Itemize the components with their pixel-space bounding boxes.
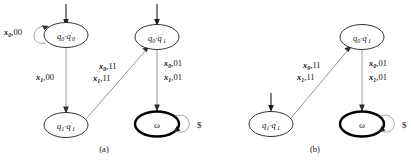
panel-a: x0,00 q0·q′0 x1,00 q1·q′1	[3, 4, 202, 154]
edge-label-a-q0q0p-to-q1q1p: x1,00	[35, 72, 54, 83]
state-a-q1q1p[interactable]: q1·q′1	[44, 113, 88, 138]
state-a-omega[interactable]: ω	[135, 112, 179, 137]
edge-label-a-selfloop-omega: $	[197, 120, 202, 130]
start-arrow-a-q0q1p	[154, 4, 160, 26]
state-a-q0q1p[interactable]: q0·q′1	[135, 25, 179, 50]
edge-a-q0q0p-to-q1q1p	[63, 48, 69, 114]
state-b-omega[interactable]: ω	[340, 112, 384, 137]
edge-label-a-selfloop-q0q0p: x0,00	[3, 27, 22, 38]
edge-a-q0q1p-to-omega	[154, 50, 160, 112]
state-b-q1q1p[interactable]: q1·q′1	[249, 112, 293, 137]
state-a-q0q0p[interactable]: q0·q′0	[44, 23, 88, 48]
edge-b-q0q1p-to-omega	[359, 50, 365, 112]
edge-label-b-q1q1p-to-q0q1p-line1: x0,11	[302, 60, 321, 71]
edge-label-a-q1q1p-to-q0q1p-line1: x0,11	[98, 61, 117, 72]
automaton-diagram: x0,00 q0·q′0 x1,00 q1·q′1	[0, 0, 411, 162]
caption-panel-a: (a)	[99, 144, 109, 154]
edge-label-a-q0q1p-to-omega-line1: x0,01	[163, 58, 182, 69]
edge-label-b-q0q1p-to-omega-line1: x0,01	[368, 58, 387, 69]
edge-label-a-q1q1p-to-q0q1p-line2: x1,11	[92, 73, 111, 84]
edge-label-b-selfloop-omega: $	[402, 120, 407, 130]
state-b-q0q1p[interactable]: q0·q′1	[340, 25, 384, 50]
start-arrow-b-q1q1p	[268, 93, 274, 112]
caption-panel-b: (b)	[310, 144, 320, 154]
figure-container: x0,00 q0·q′0 x1,00 q1·q′1	[0, 0, 411, 162]
edge-label-a-q0q1p-to-omega-line2: x1,01	[163, 72, 182, 83]
edge-label-b-q0q1p-to-omega-line2: x1,01	[368, 72, 387, 83]
state-b-omega-label: ω	[359, 120, 365, 130]
edge-label-b-q1q1p-to-q0q1p-line2: x1,11	[296, 72, 315, 83]
state-a-omega-label: ω	[154, 120, 160, 130]
panel-b: q1·q′1 x0,11 x1,11 q0·q′1	[249, 25, 407, 155]
